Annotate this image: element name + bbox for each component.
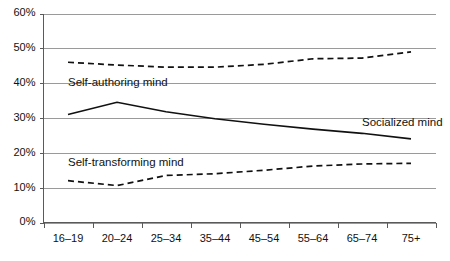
y-tick-label: 60% bbox=[13, 6, 35, 18]
line-chart: 0%10%20%30%40%50%60% 16–1920–2425–3435–4… bbox=[0, 0, 450, 261]
x-tick-label: 25–34 bbox=[151, 232, 182, 244]
x-tick-label: 16–19 bbox=[53, 232, 84, 244]
series-line-self-authoring-mind bbox=[68, 52, 411, 67]
y-axis-tick-labels: 0%10%20%30%40%50%60% bbox=[13, 6, 35, 227]
x-tick-label: 35–44 bbox=[200, 232, 231, 244]
series-annotation-self-authoring-mind: Self-authoring mind bbox=[68, 76, 168, 88]
x-tick-label: 45–54 bbox=[249, 232, 280, 244]
y-tick-label: 0% bbox=[20, 215, 36, 227]
x-tick-label: 20–24 bbox=[102, 232, 133, 244]
x-tick-label: 65–74 bbox=[347, 232, 378, 244]
y-tick-label: 10% bbox=[13, 181, 35, 193]
y-tick-label: 40% bbox=[13, 76, 35, 88]
x-axis-tick-labels: 16–1920–2425–3435–4445–5455–6465–7475+ bbox=[53, 232, 421, 244]
x-tick-label: 55–64 bbox=[298, 232, 329, 244]
series-line-socialized-mind bbox=[68, 102, 411, 139]
chart-canvas: 0%10%20%30%40%50%60% 16–1920–2425–3435–4… bbox=[0, 0, 450, 261]
series-annotation-socialized-mind: Socialized mind bbox=[362, 116, 443, 128]
x-tick-label: 75+ bbox=[402, 232, 421, 244]
y-tick-label: 20% bbox=[13, 146, 35, 158]
y-tick-label: 30% bbox=[13, 111, 35, 123]
series-annotation-self-transforming-mind: Self-transforming mind bbox=[68, 156, 184, 168]
y-tick-label: 50% bbox=[13, 41, 35, 53]
